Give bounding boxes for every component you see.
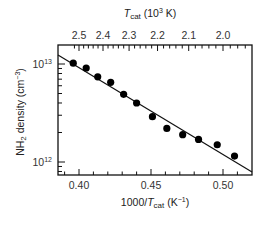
y-axis-label: NH2 density (cm−3): [14, 68, 28, 156]
data-point: [83, 64, 90, 71]
x-tick-label: 0.45: [141, 179, 162, 191]
top-tick-label: 2.0: [216, 29, 231, 41]
y-tick-label-1e12: 1012: [33, 156, 53, 168]
data-point: [231, 152, 238, 159]
plot-frame: [58, 45, 252, 175]
data-point: [149, 113, 156, 120]
data-point: [70, 60, 77, 67]
fit-line: [58, 55, 252, 172]
data-point: [107, 79, 114, 86]
top-axis-label: Tcat (103 K): [124, 7, 177, 21]
data-point: [133, 99, 140, 106]
top-tick-label: 2.1: [181, 29, 196, 41]
x-tick-label: 0.40: [69, 179, 90, 191]
data-point: [163, 125, 170, 132]
y-tick-label-1e13: 1013: [33, 58, 53, 70]
data-point: [120, 91, 127, 98]
top-tick-label: 2.5: [72, 29, 87, 41]
top-tick-label: 2.3: [122, 29, 137, 41]
data-point: [94, 73, 101, 80]
x-tick-label: 0.50: [213, 179, 234, 191]
data-point: [195, 136, 202, 143]
nh2-density-chart: 0.400.450.502.52.42.32.22.12.0 Tcat (103…: [0, 0, 266, 226]
top-tick-label: 2.2: [150, 29, 165, 41]
axis-tick-labels: 0.400.450.502.52.42.32.22.12.0: [69, 29, 234, 191]
data-point: [214, 141, 221, 148]
x-axis-label: 1000/Tcat (K−1): [121, 196, 189, 210]
data-point: [179, 131, 186, 138]
data-points: [70, 60, 238, 160]
top-tick-label: 2.4: [96, 29, 111, 41]
